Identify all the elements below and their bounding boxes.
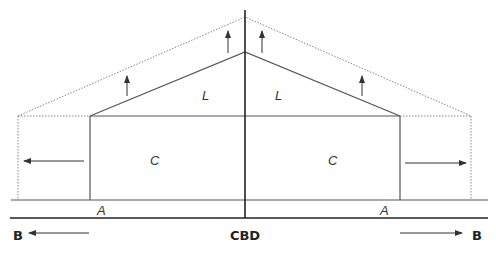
label-cbd: CBD bbox=[230, 228, 260, 243]
label-c-left: C bbox=[150, 153, 160, 168]
label-a-right: A bbox=[379, 203, 389, 218]
label-l-left: L bbox=[202, 88, 209, 103]
label-l-right: L bbox=[275, 88, 282, 103]
label-b-right: B bbox=[472, 228, 482, 243]
urban-land-use-diagram: L L C C A A CBD B B bbox=[0, 0, 496, 254]
label-b-left: B bbox=[13, 228, 23, 243]
label-a-left: A bbox=[96, 203, 106, 218]
label-c-right: C bbox=[328, 153, 338, 168]
